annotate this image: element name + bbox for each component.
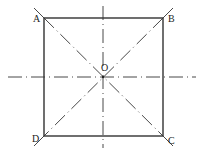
center-label-o: O xyxy=(101,62,108,73)
vertex-label-b: B xyxy=(168,13,175,24)
square-symmetry-diagram: A B C D O xyxy=(0,0,199,152)
vertex-label-a: A xyxy=(33,13,41,24)
center-point xyxy=(102,76,104,78)
vertex-label-d: D xyxy=(32,133,39,144)
vertex-label-c: C xyxy=(168,135,175,146)
